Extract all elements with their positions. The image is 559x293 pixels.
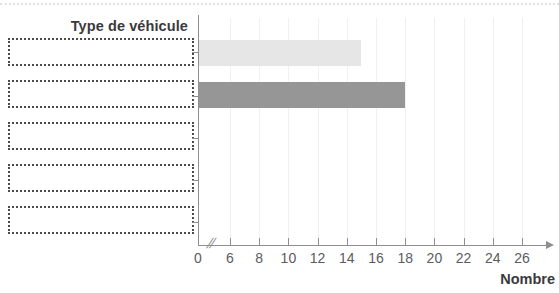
gridline-20 (434, 18, 435, 245)
x-tick-0 (198, 238, 199, 245)
x-axis-title: Nombre (500, 271, 555, 287)
x-tick-12 (318, 238, 319, 245)
gridline-16 (376, 18, 377, 245)
label-box-1[interactable] (8, 38, 194, 66)
label-box-4[interactable] (8, 164, 194, 192)
x-tick-16 (376, 238, 377, 245)
x-tick-14 (347, 238, 348, 245)
y-tick-1 (192, 52, 199, 53)
x-tick-18 (405, 238, 406, 245)
chart-page: Type de véhicule // 06810121416182022242… (0, 0, 559, 293)
label-box-3[interactable] (8, 122, 194, 150)
y-tick-5 (192, 222, 199, 223)
y-tick-2 (192, 96, 199, 97)
x-axis-line (198, 245, 548, 246)
y-axis-line (198, 15, 199, 245)
y-tick-3 (192, 138, 199, 139)
bar-2 (198, 82, 405, 108)
plot-area (198, 18, 538, 245)
gridline-26 (522, 18, 523, 245)
x-tick-26 (522, 238, 523, 245)
label-box-5[interactable] (8, 206, 194, 234)
gridline-18 (405, 18, 406, 245)
x-tick-24 (493, 238, 494, 245)
x-tick-8 (259, 238, 260, 245)
x-tick-label-26: 26 (502, 250, 542, 266)
x-tick-6 (230, 238, 231, 245)
bar-1 (198, 40, 361, 66)
label-box-2[interactable] (8, 80, 194, 108)
x-tick-22 (464, 238, 465, 245)
gridline-22 (464, 18, 465, 245)
y-axis-title: Type de véhicule (0, 18, 196, 34)
x-axis-arrow-icon (546, 241, 554, 249)
y-tick-4 (192, 180, 199, 181)
x-tick-10 (288, 238, 289, 245)
gridline-24 (493, 18, 494, 245)
x-tick-20 (434, 238, 435, 245)
top-dotted-rule (0, 3, 559, 5)
